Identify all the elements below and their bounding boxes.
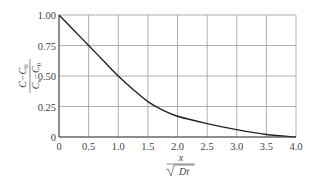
x-tick-label: 1.5	[141, 141, 154, 152]
x-axis-ticks: 00.51.01.52.02.53.03.54.0	[56, 141, 302, 152]
x-tick-label: 2.5	[201, 141, 214, 152]
x-tick-label: 2.0	[171, 141, 184, 152]
y-axis-label: C−C0 Cs−C0	[17, 59, 43, 93]
concentration-chart: 00.51.01.52.02.53.03.54.0 00.250.500.751…	[0, 0, 312, 192]
x-tick-label: 3.0	[230, 141, 243, 152]
x-axis-label: x Dt	[166, 152, 195, 177]
y-tick-label: 0.75	[38, 41, 56, 52]
x-tick-label: 4.0	[289, 141, 302, 152]
svg-text:Dt: Dt	[178, 166, 189, 177]
x-tick-label: 0	[56, 141, 61, 152]
x-tick-label: 1.0	[112, 141, 125, 152]
svg-text:x: x	[178, 152, 184, 163]
svg-text:C−C0: C−C0	[17, 64, 30, 88]
x-tick-label: 3.5	[260, 141, 273, 152]
x-tick-label: 0.5	[82, 141, 95, 152]
y-tick-label: 1.00	[38, 10, 56, 21]
grid-lines	[59, 15, 296, 137]
y-tick-label: 0.25	[38, 102, 56, 113]
y-tick-label: 0	[51, 132, 56, 143]
